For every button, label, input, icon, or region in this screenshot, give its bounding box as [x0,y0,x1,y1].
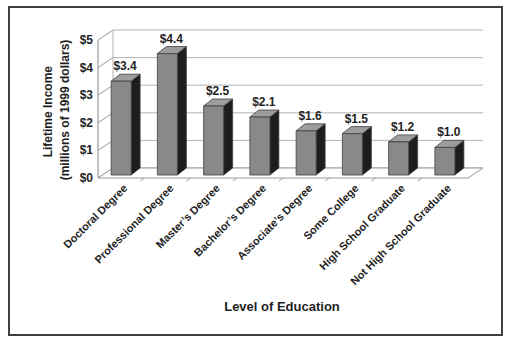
bar-value-label: $1.5 [345,112,369,126]
bar-side-face [270,110,279,175]
y-tick-label: $4 [80,61,94,75]
x-category-label: High School Graduate [317,182,407,272]
y-tick-connector [98,30,113,40]
bar-front-face [296,131,316,175]
x-axis-title: Level of Education [224,299,340,314]
y-axis-title: Lifetime Income (millions of 1999 dollar… [41,40,72,181]
bar-side-face [362,127,371,175]
bar-value-label: $3.4 [113,59,137,73]
bar-front-face [204,106,224,175]
y-tick-label: $1 [80,143,94,157]
x-category-label: Professional Degree [92,182,176,266]
y-tick-label: $5 [80,33,94,47]
bar-value-label: $1.0 [437,125,461,139]
bar-front-face [435,147,455,175]
bar-value-label: $2.1 [252,95,276,109]
bar-front-face [157,54,177,175]
bar-chart: $0$1$2$3$4$5$3.4Doctoral Degree$4.4Profe… [0,0,514,346]
y-axis-title-line2: (millions of 1999 dollars) [58,40,72,181]
bar-front-face [342,134,362,175]
y-tick-label: $2 [80,116,94,130]
bar-side-face [316,124,325,175]
bar-value-label: $4.4 [160,32,184,46]
floor [98,168,483,178]
bar-value-label: $2.5 [206,84,230,98]
bar-side-face [177,47,186,175]
y-axis-title-line1: Lifetime Income [41,66,55,158]
y-tick-label: $0 [80,171,94,185]
bar-value-label: $1.2 [391,120,415,134]
bar-front-face [389,142,409,175]
y-tick-connector [98,58,113,68]
bar-side-face [224,99,233,175]
plot-area: $0$1$2$3$4$5$3.4Doctoral Degree$4.4Profe… [61,30,483,287]
bar-value-label: $1.6 [298,109,322,123]
bar-side-face [131,74,140,175]
figure-page: $0$1$2$3$4$5$3.4Doctoral Degree$4.4Profe… [0,0,514,346]
x-category-label: Not High School Graduate [348,182,453,287]
bar-front-face [250,117,270,175]
bar-front-face [111,81,131,175]
y-tick-label: $3 [80,88,94,102]
